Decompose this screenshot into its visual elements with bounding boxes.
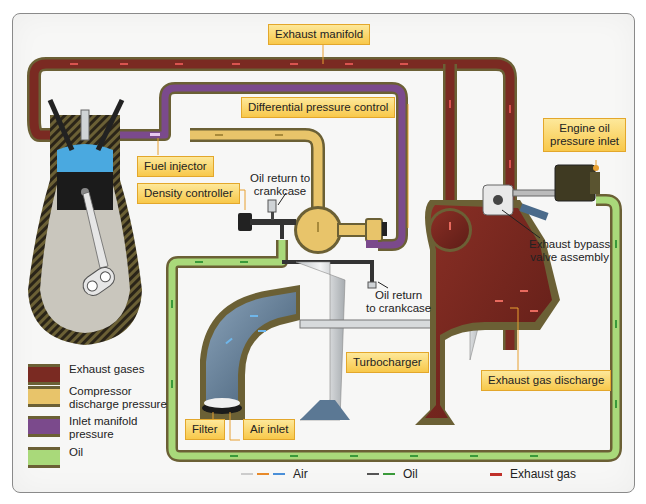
legend-label: Oil bbox=[69, 446, 83, 459]
exhaust-bypass-valve bbox=[483, 165, 600, 221]
note-oil-return-top: Oil return to crankcase bbox=[250, 172, 310, 198]
swatch-inlet-manifold bbox=[28, 416, 60, 437]
exhaust-arrow-icon bbox=[490, 470, 504, 478]
legend-compressor-discharge: Compressor discharge pressure bbox=[28, 385, 167, 411]
legend-label: Inlet manifold pressure bbox=[69, 415, 137, 441]
legend-oil: Oil bbox=[28, 446, 83, 468]
swatch-compressor bbox=[28, 386, 60, 407]
air-intake-duct bbox=[200, 285, 300, 420]
air-arrows-icon bbox=[241, 470, 287, 478]
legend-label: Compressor discharge pressure bbox=[69, 385, 167, 411]
callout-density-controller: Density controller bbox=[137, 183, 240, 204]
swatch-oil bbox=[28, 447, 60, 468]
callout-exhaust-gas-discharge: Exhaust gas discharge bbox=[481, 370, 611, 391]
swatch-exhaust bbox=[28, 364, 60, 385]
flow-legend-air: Air bbox=[241, 467, 308, 481]
flow-legend-label: Air bbox=[293, 467, 308, 481]
note-exhaust-bypass-valve: Exhaust bypass valve assembly bbox=[529, 238, 610, 264]
callout-fuel-injector: Fuel injector bbox=[137, 156, 214, 177]
differential-pressure-control bbox=[294, 206, 387, 254]
density-controller bbox=[238, 200, 296, 239]
flow-legend-oil: Oil bbox=[367, 467, 418, 481]
callout-turbocharger: Turbocharger bbox=[346, 352, 429, 373]
flow-legend-label: Exhaust gas bbox=[510, 467, 576, 481]
callout-filter: Filter bbox=[185, 419, 225, 440]
legend-label: Exhaust gases bbox=[69, 363, 144, 376]
legend-inlet-manifold: Inlet manifold pressure bbox=[28, 415, 137, 441]
flow-legend-label: Oil bbox=[403, 467, 418, 481]
legend-exhaust-gases: Exhaust gases bbox=[28, 363, 144, 385]
flow-legend-exhaust: Exhaust gas bbox=[490, 467, 576, 481]
note-oil-return-bottom: Oil return to crankcase bbox=[366, 289, 431, 315]
oil-arrows-icon bbox=[367, 470, 397, 478]
callout-exhaust-manifold: Exhaust manifold bbox=[268, 24, 370, 45]
callout-air-inlet: Air inlet bbox=[243, 419, 295, 440]
callout-differential-pressure-control: Differential pressure control bbox=[241, 97, 395, 118]
callout-engine-oil-pressure-inlet: Engine oil pressure inlet bbox=[543, 118, 626, 152]
